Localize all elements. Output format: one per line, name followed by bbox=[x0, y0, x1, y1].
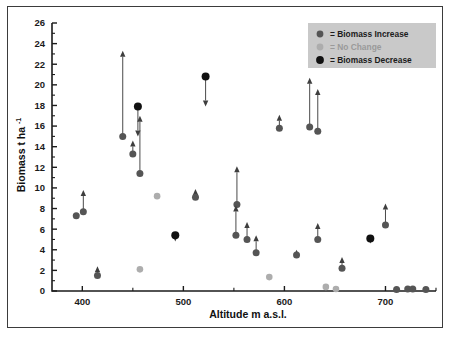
scatter-point bbox=[136, 170, 143, 177]
data-point-group bbox=[422, 286, 429, 293]
scatter-point bbox=[232, 232, 239, 239]
change-arrow-head bbox=[120, 51, 125, 57]
scatter-point bbox=[323, 284, 330, 291]
y-axis-title: Biomass t ha -1 bbox=[15, 118, 27, 193]
scatter-point bbox=[409, 285, 416, 292]
scatter-point bbox=[134, 102, 142, 110]
change-arrow-head bbox=[339, 257, 344, 263]
data-point-group bbox=[192, 189, 199, 201]
legend-label-decrease: = Biomass Decrease bbox=[330, 55, 412, 65]
data-point-group bbox=[276, 115, 283, 132]
scatter-point bbox=[154, 193, 161, 200]
data-point-group bbox=[314, 223, 321, 243]
scatter-point bbox=[314, 128, 321, 135]
change-arrow-head bbox=[277, 115, 282, 121]
change-arrow-head bbox=[81, 190, 86, 196]
data-point-group bbox=[80, 190, 87, 215]
scatter-point bbox=[339, 265, 346, 272]
chart-legend: = Biomass Increase= No Change= Biomass D… bbox=[308, 23, 436, 68]
y-tick-label: 26 bbox=[34, 17, 45, 28]
data-series bbox=[73, 51, 430, 293]
data-point-group bbox=[293, 250, 300, 259]
change-arrow-head bbox=[315, 89, 320, 95]
scatter-point bbox=[333, 286, 340, 293]
data-point-group bbox=[137, 266, 144, 273]
data-point-group bbox=[339, 257, 346, 272]
scatter-point bbox=[137, 266, 144, 273]
figure-frame: 02468101214161820222426400500600700 = Bi… bbox=[7, 6, 443, 328]
scatter-point bbox=[293, 251, 300, 258]
change-arrow-head bbox=[253, 235, 258, 241]
scatter-point bbox=[94, 272, 101, 279]
scatter-point bbox=[129, 150, 136, 157]
data-point-group bbox=[244, 222, 251, 243]
y-tick-label: 24 bbox=[34, 38, 45, 49]
y-tick-label: 10 bbox=[34, 182, 45, 193]
y-tick-label: 2 bbox=[40, 265, 45, 276]
scatter-point bbox=[366, 234, 374, 242]
scatter-point bbox=[314, 236, 321, 243]
change-arrow-head bbox=[130, 141, 135, 147]
data-point-group bbox=[94, 266, 101, 279]
legend-label-increase: = Biomass Increase bbox=[330, 29, 409, 39]
data-point-group bbox=[154, 193, 161, 200]
scatter-point bbox=[244, 236, 251, 243]
y-tick-label: 22 bbox=[34, 59, 45, 70]
scatter-point bbox=[73, 212, 80, 219]
data-point-group bbox=[382, 203, 389, 228]
data-point-group bbox=[266, 274, 273, 281]
scatter-point bbox=[233, 201, 240, 208]
data-point-group bbox=[171, 231, 179, 241]
x-tick-label: 500 bbox=[175, 296, 191, 307]
scatter-point bbox=[253, 249, 260, 256]
data-point-group bbox=[232, 205, 239, 238]
data-point-group bbox=[306, 78, 313, 131]
scatter-point bbox=[266, 274, 273, 281]
scatter-point bbox=[422, 286, 429, 293]
x-axis-title: Altitude m a.s.l. bbox=[209, 308, 287, 320]
change-arrow-head bbox=[244, 222, 249, 228]
y-tick-label: 12 bbox=[34, 162, 45, 173]
data-point-group bbox=[409, 285, 416, 292]
data-point-group bbox=[73, 212, 80, 219]
scatter-point bbox=[192, 194, 199, 201]
y-tick-label: 8 bbox=[40, 203, 45, 214]
data-point-group bbox=[253, 235, 260, 256]
scatter-point bbox=[382, 222, 389, 229]
y-tick-label: 14 bbox=[34, 141, 45, 152]
legend-label-nochange: = No Change bbox=[330, 42, 382, 52]
x-tick-label: 400 bbox=[74, 296, 90, 307]
change-arrow-head bbox=[307, 78, 312, 84]
data-point-group bbox=[366, 234, 374, 243]
data-point-group bbox=[119, 51, 126, 140]
legend-marker-decrease bbox=[316, 56, 324, 64]
data-point-group bbox=[323, 284, 330, 291]
y-tick-label: 6 bbox=[40, 224, 45, 235]
data-point-group bbox=[202, 73, 210, 107]
data-point-group bbox=[129, 141, 136, 158]
scatter-point bbox=[171, 231, 179, 239]
x-tick-label: 600 bbox=[276, 296, 292, 307]
change-arrow-head bbox=[315, 223, 320, 229]
y-tick-label: 18 bbox=[34, 100, 45, 111]
data-point-group bbox=[233, 166, 240, 208]
data-point-group bbox=[393, 286, 400, 293]
scatter-point bbox=[276, 125, 283, 132]
y-tick-label: 20 bbox=[34, 79, 45, 90]
change-arrow-head bbox=[234, 166, 239, 172]
scatter-point bbox=[119, 133, 126, 140]
legend-marker-increase bbox=[317, 31, 324, 38]
scatter-point bbox=[80, 208, 87, 215]
y-tick-label: 4 bbox=[40, 244, 46, 255]
change-arrow-head bbox=[383, 203, 388, 209]
data-point-group bbox=[314, 89, 321, 135]
y-tick-label: 0 bbox=[40, 285, 45, 296]
biomass-altitude-scatter-plot: 02468101214161820222426400500600700 = Bi… bbox=[8, 7, 444, 329]
scatter-point bbox=[306, 124, 313, 131]
scatter-point bbox=[393, 286, 400, 293]
change-arrow-head bbox=[95, 266, 100, 272]
x-tick-label: 700 bbox=[378, 296, 394, 307]
change-arrow-head bbox=[203, 100, 208, 106]
legend-marker-nochange bbox=[317, 44, 324, 51]
axis-titles: Altitude m a.s.l. Biomass t ha -1 bbox=[15, 118, 287, 320]
